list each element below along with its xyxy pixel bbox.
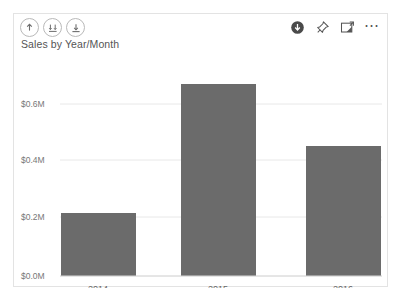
x-axis-labels: 2014 2015 2016 — [88, 284, 353, 288]
bar-2014[interactable] — [61, 213, 136, 276]
x-tick-label: 2014 — [88, 284, 108, 288]
visual-actions: ⋯ — [289, 19, 380, 36]
drill-mode-icon[interactable] — [66, 18, 85, 37]
bar-chart: $0.0M $0.2M $0.4M $0.6M 2014 2015 2016 — [14, 59, 389, 288]
chart-plot-area: $0.0M $0.2M $0.4M $0.6M 2014 2015 2016 — [14, 59, 387, 288]
focus-mode-icon[interactable] — [339, 19, 356, 36]
x-tick-label: 2015 — [208, 284, 228, 288]
y-tick-label: $0.2M — [21, 212, 45, 222]
pin-icon[interactable] — [314, 19, 331, 36]
y-tick-label: $0.0M — [21, 271, 45, 281]
y-axis-labels: $0.0M $0.2M $0.4M $0.6M — [21, 99, 45, 281]
bar-2015[interactable] — [181, 84, 256, 276]
y-tick-label: $0.4M — [21, 155, 45, 165]
bar-2016[interactable] — [306, 146, 381, 276]
visual-card: Sales by Year/Month — [13, 13, 388, 287]
more-options-icon[interactable]: ⋯ — [364, 21, 380, 35]
drill-down-all-icon[interactable] — [43, 18, 62, 37]
drill-up-icon[interactable] — [20, 18, 39, 37]
drill-controls — [20, 18, 85, 37]
visual-title: Sales by Year/Month — [21, 38, 119, 50]
export-data-icon[interactable] — [289, 19, 306, 36]
bars — [61, 84, 381, 276]
visual-header: Sales by Year/Month — [14, 14, 387, 59]
x-tick-label: 2016 — [333, 284, 353, 288]
y-tick-label: $0.6M — [21, 99, 45, 109]
